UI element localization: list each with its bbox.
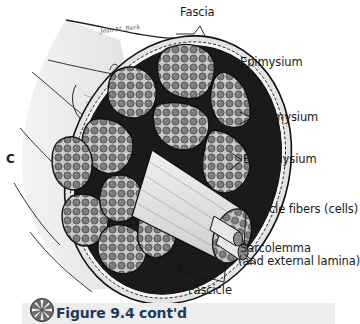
label-fascicle: Fascicle: [188, 284, 232, 297]
label-sarcolemma-sub: (and external lamina): [238, 255, 360, 268]
label-epimysium: Epimysium: [240, 56, 303, 69]
figure-caption: Figure 9.4 cont'd: [56, 305, 187, 321]
flower-badge-icon: [29, 297, 55, 323]
panel-letter-c: C: [6, 152, 15, 166]
label-fascia: Fascia: [180, 6, 215, 19]
label-perimysium: Perimysium: [252, 111, 318, 124]
label-endomysium: Endomysium: [243, 153, 317, 166]
label-muscle-fibers: Muscle fibers (cells): [246, 203, 358, 216]
